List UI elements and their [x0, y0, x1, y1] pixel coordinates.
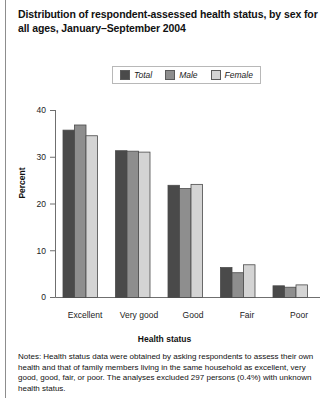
bar-excellent-female — [86, 136, 98, 298]
x-tick-poor: Poor — [264, 310, 329, 320]
figure-notes: Notes: Health status data were obtained … — [18, 352, 318, 394]
legend-item-male: Male — [165, 70, 197, 80]
legend-label-female: Female — [225, 70, 253, 80]
bar-excellent-male — [75, 125, 87, 298]
bar-good-male — [180, 189, 192, 298]
bar-poor-male — [285, 287, 297, 297]
legend-swatch-female — [211, 70, 221, 80]
y-tick-30: 30 — [24, 152, 46, 162]
chart-legend: Total Male Female — [112, 66, 261, 84]
x-axis-title: Health status — [0, 334, 329, 344]
legend-label-total: Total — [134, 70, 152, 80]
y-tick-10: 10 — [24, 246, 46, 256]
bar-good-female — [191, 184, 203, 297]
bar-very-good-total — [116, 151, 128, 298]
bar-poor-total — [273, 286, 285, 298]
bar-good-total — [168, 185, 180, 297]
legend-item-female: Female — [211, 70, 253, 80]
legend-item-total: Total — [120, 70, 152, 80]
bar-very-good-male — [127, 151, 139, 297]
bar-very-good-female — [139, 152, 151, 297]
legend-swatch-total — [120, 70, 130, 80]
bar-excellent-total — [63, 130, 75, 297]
y-tick-20: 20 — [24, 199, 46, 209]
y-tick-0: 0 — [24, 292, 46, 302]
page-title: Distribution of respondent-assessed heal… — [18, 8, 318, 35]
bar-fair-female — [244, 265, 256, 298]
legend-swatch-male — [165, 70, 175, 80]
bar-fair-total — [221, 268, 233, 298]
legend-label-male: Male — [179, 70, 197, 80]
y-tick-40: 40 — [24, 105, 46, 115]
figure-panel: Distribution of respondent-assessed heal… — [0, 0, 329, 398]
bar-poor-female — [296, 285, 308, 298]
bar-fair-male — [232, 273, 244, 298]
